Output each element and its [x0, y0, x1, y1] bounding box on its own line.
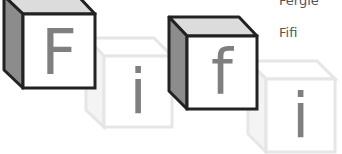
- block-letter-i-1: i: [104, 61, 172, 123]
- name-blocks-illustration: F i f i Fergie Fifi: [0, 0, 342, 154]
- block-letter-F: F: [23, 22, 95, 84]
- name-label-fifi: Fifi: [279, 25, 297, 41]
- name-label-fergie: Fergie: [279, 0, 319, 9]
- block-letter-f: f: [187, 41, 257, 103]
- block-letter-i-2: i: [266, 85, 335, 147]
